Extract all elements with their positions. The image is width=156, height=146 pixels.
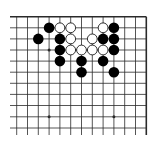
white-stone bbox=[98, 45, 108, 55]
go-board[interactable] bbox=[0, 0, 156, 146]
white-stone bbox=[66, 23, 76, 33]
white-stone bbox=[55, 23, 65, 33]
black-stone bbox=[98, 56, 109, 67]
black-stone bbox=[55, 56, 66, 67]
black-stone bbox=[55, 34, 66, 45]
black-stone bbox=[33, 34, 44, 45]
black-stone bbox=[44, 23, 55, 34]
black-stone bbox=[55, 45, 66, 56]
white-stone bbox=[87, 34, 97, 44]
black-stone bbox=[76, 67, 87, 78]
star-point bbox=[112, 115, 115, 118]
white-stone bbox=[66, 34, 76, 44]
black-stone bbox=[98, 34, 109, 45]
star-point bbox=[48, 115, 51, 118]
black-stone bbox=[109, 23, 120, 34]
black-stone bbox=[109, 45, 120, 56]
black-stone bbox=[109, 67, 120, 78]
white-stone bbox=[66, 45, 76, 55]
black-stone bbox=[76, 56, 87, 67]
black-stone bbox=[109, 34, 120, 45]
white-stone bbox=[98, 23, 108, 33]
white-stone bbox=[77, 45, 87, 55]
star-point bbox=[48, 49, 51, 52]
white-stone bbox=[87, 45, 97, 55]
